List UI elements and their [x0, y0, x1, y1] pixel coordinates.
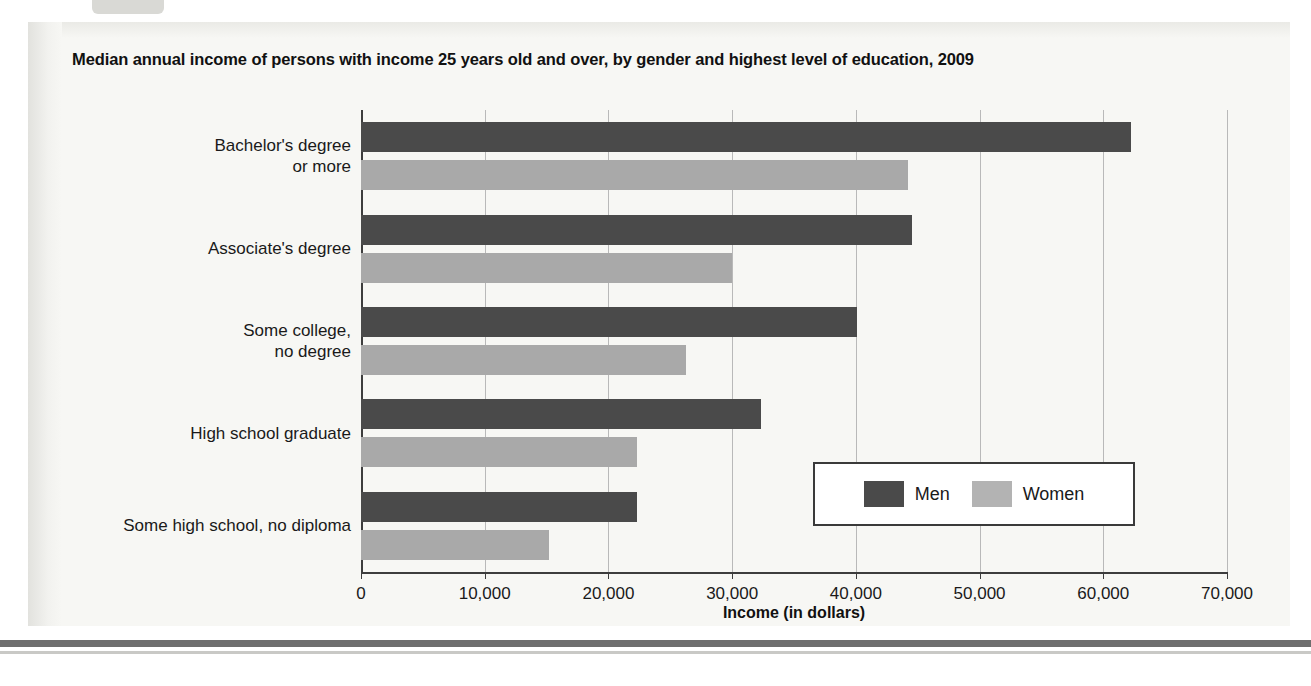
x-axis-tick	[980, 572, 981, 579]
chart-title: Median annual income of persons with inc…	[72, 50, 974, 69]
gridline	[1227, 110, 1228, 572]
bar-men	[361, 492, 637, 522]
x-axis-tick-label: 10,000	[459, 584, 511, 604]
x-axis-tick	[1227, 572, 1228, 579]
bar-women	[361, 253, 732, 283]
bar-women	[361, 437, 637, 467]
x-axis-tick-label: 30,000	[706, 584, 758, 604]
legend-label-women: Women	[1023, 484, 1085, 505]
x-axis-tick	[732, 572, 733, 579]
category-label: Bachelor's degree or more	[31, 135, 351, 178]
x-axis-tick	[485, 572, 486, 579]
figure-page: Median annual income of persons with inc…	[0, 0, 1311, 686]
x-axis-line	[361, 572, 1227, 574]
bar-men	[361, 215, 912, 245]
x-axis-title: Income (in dollars)	[361, 604, 1227, 622]
scan-artifact-notch	[92, 0, 164, 14]
legend-swatch-women	[972, 481, 1012, 507]
scan-shade-top	[28, 22, 1290, 38]
bar-men	[361, 122, 1131, 152]
x-axis-tick-label: 40,000	[830, 584, 882, 604]
legend-swatch-men	[864, 481, 904, 507]
x-axis-tick-label: 20,000	[582, 584, 634, 604]
x-axis-tick	[361, 572, 362, 579]
legend-item-men: Men	[864, 481, 950, 507]
category-label: Some high school, no diploma	[31, 515, 351, 536]
x-axis-tick-label: 70,000	[1201, 584, 1253, 604]
bar-women	[361, 160, 908, 190]
legend-label-men: Men	[915, 484, 950, 505]
footer-rule	[0, 640, 1311, 647]
page-top-margin	[0, 0, 1311, 22]
x-axis-tick-label: 60,000	[1077, 584, 1129, 604]
bar-women	[361, 530, 549, 560]
footer-rule-secondary	[0, 651, 1311, 654]
category-axis-labels: Bachelor's degree or moreAssociate's deg…	[31, 110, 351, 572]
category-label: Some college, no degree	[31, 320, 351, 363]
x-axis-tick	[856, 572, 857, 579]
category-label: High school graduate	[31, 423, 351, 444]
legend-item-women: Women	[972, 481, 1085, 507]
bar-men	[361, 307, 857, 337]
x-axis-tick	[1103, 572, 1104, 579]
x-axis-tick-label: 0	[356, 584, 365, 604]
category-label: Associate's degree	[31, 238, 351, 259]
x-axis-tick	[608, 572, 609, 579]
x-axis-tick-label: 50,000	[954, 584, 1006, 604]
bar-women	[361, 345, 686, 375]
chart-legend: Men Women	[813, 462, 1135, 526]
bar-men	[361, 399, 761, 429]
